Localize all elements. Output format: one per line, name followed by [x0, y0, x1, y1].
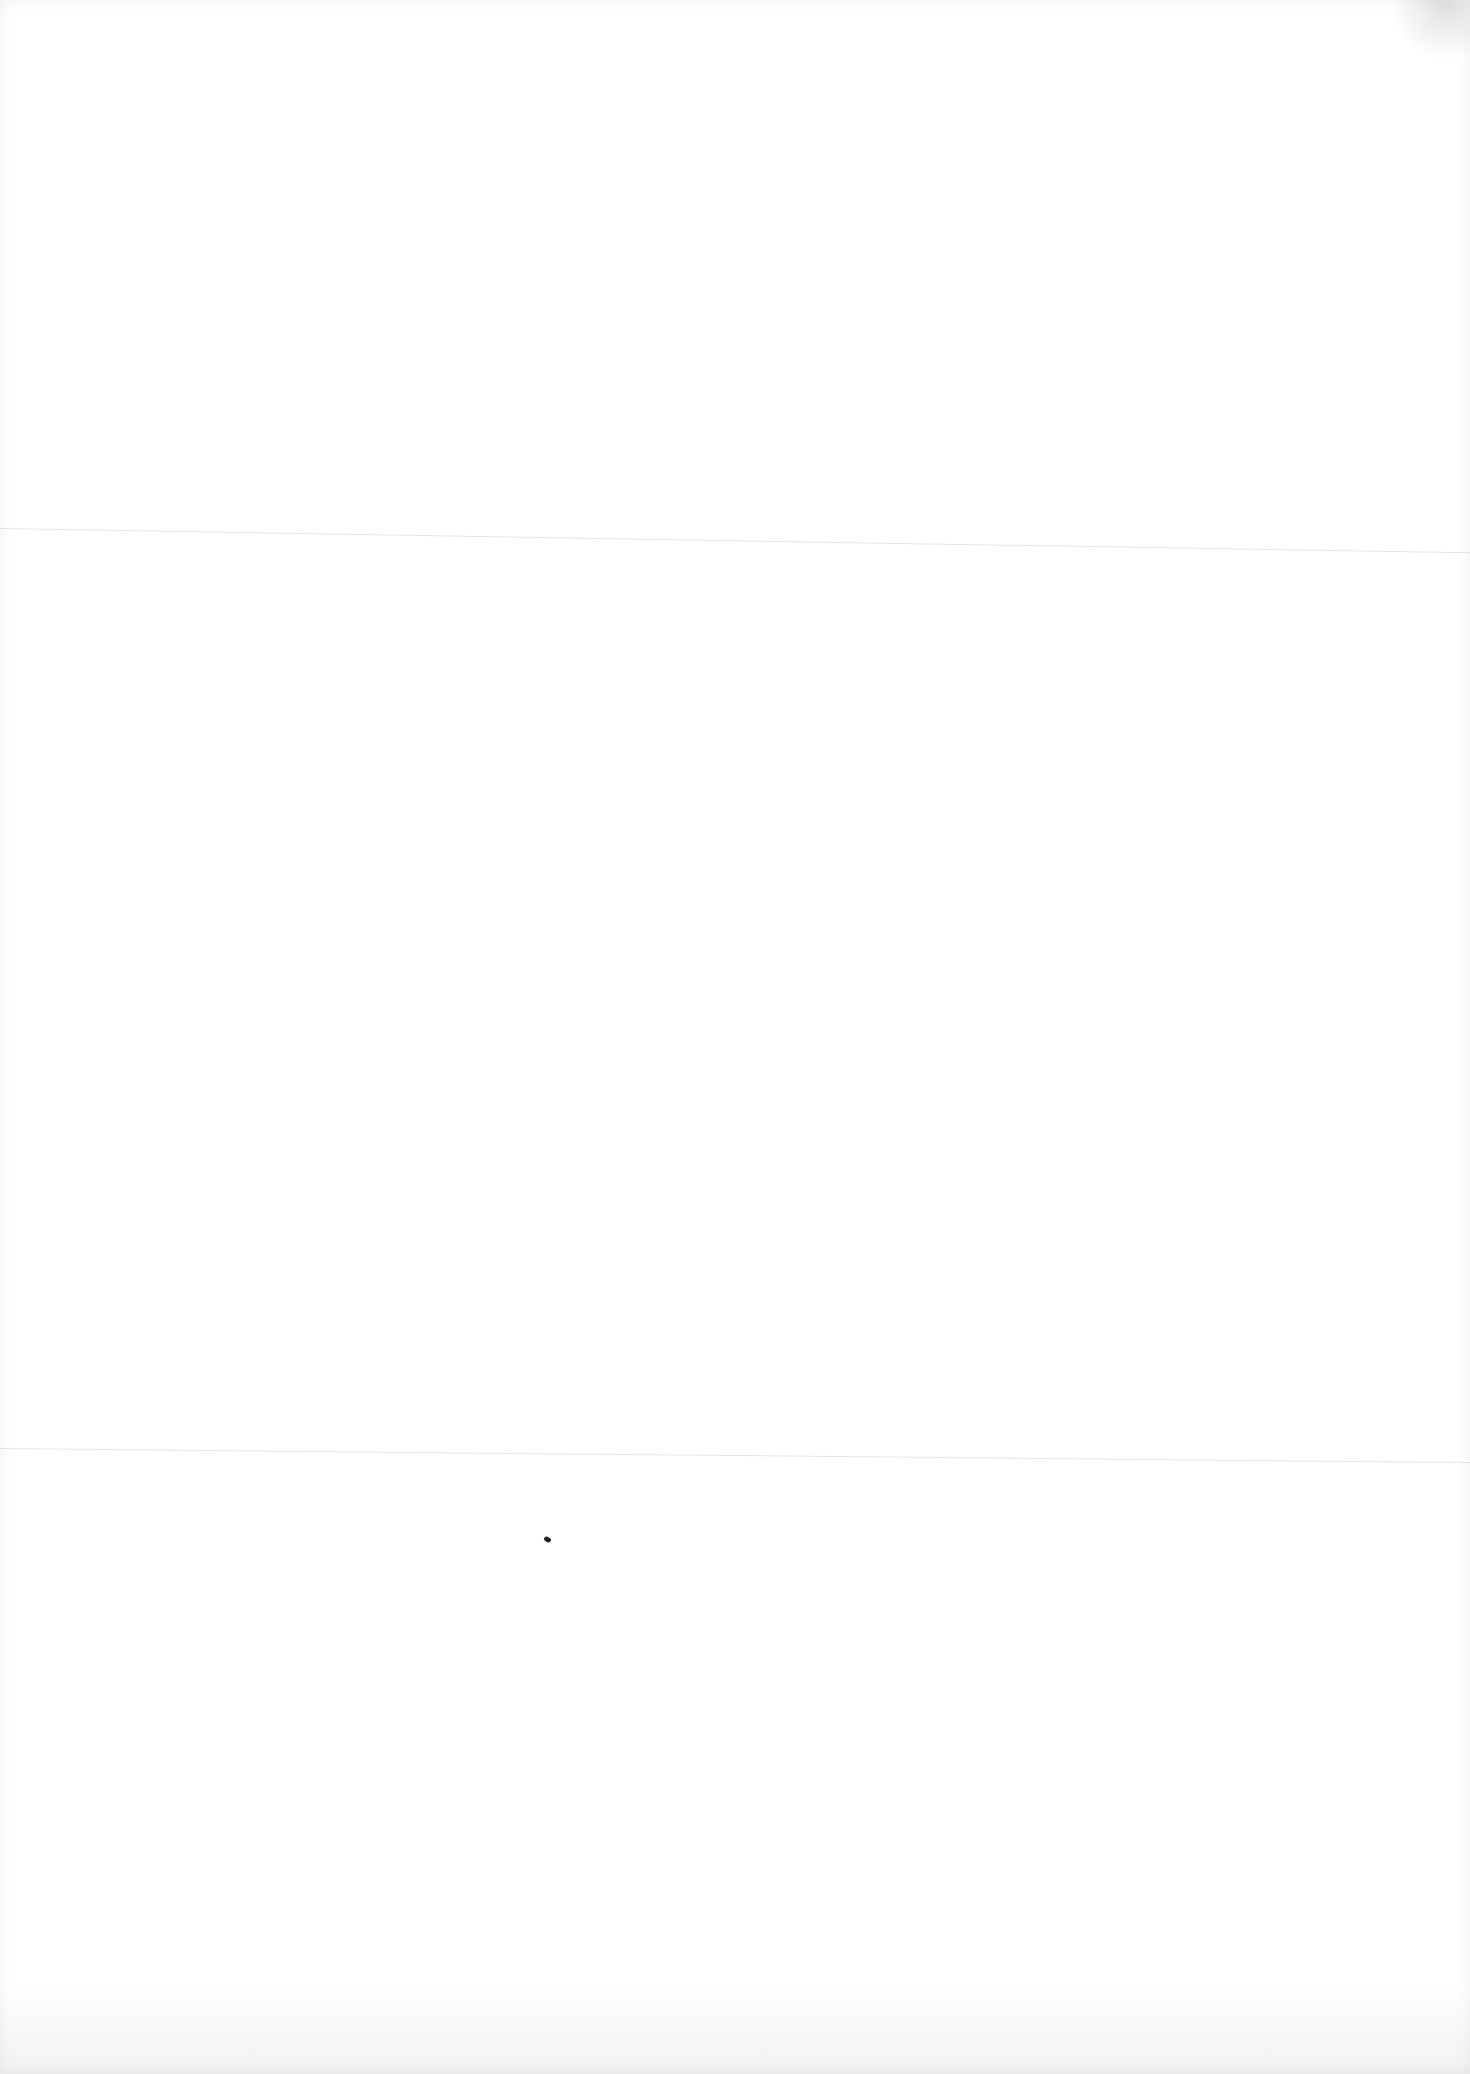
fold-line-bottom [0, 1448, 1470, 1463]
ink-speck [543, 1535, 552, 1543]
fold-line-top [0, 528, 1470, 553]
corner-smudge [1390, 0, 1470, 60]
bottom-edge-wear [0, 1984, 1470, 2074]
blank-page [0, 0, 1470, 2074]
